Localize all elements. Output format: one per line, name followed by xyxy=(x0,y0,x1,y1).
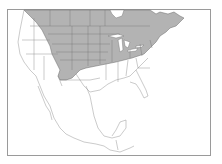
range-map xyxy=(0,0,222,164)
